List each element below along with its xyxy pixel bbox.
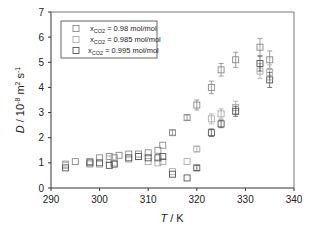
plot-area [63, 38, 273, 181]
y-tick-label: 2 [38, 132, 44, 143]
scatter-chart: 29030031032033034001234567 xCO2 = 0.98 m… [0, 0, 317, 237]
data-point [184, 159, 190, 165]
data-point [72, 159, 78, 165]
data-point [135, 154, 141, 160]
data-point [63, 165, 69, 171]
y-tick-label: 1 [38, 157, 44, 168]
data-point [145, 159, 151, 165]
y-tick-label: 7 [38, 7, 44, 18]
y-tick-label: 6 [38, 32, 44, 43]
y-tick-label: 4 [38, 82, 44, 93]
data-point [184, 175, 190, 181]
series-1 [63, 64, 273, 175]
y-tick-label: 0 [38, 183, 44, 194]
x-axis-label: T / K [160, 212, 184, 224]
x-tick-label: 290 [43, 194, 60, 205]
y-tick-label: 3 [38, 107, 44, 118]
x-tick-label: 340 [286, 194, 303, 205]
x-tick-label: 300 [91, 194, 108, 205]
y-axis-label: D / 10-8 m2 s-1 [14, 67, 26, 134]
series-2 [63, 56, 273, 181]
y-tick-label: 5 [38, 57, 44, 68]
data-point [135, 151, 141, 157]
x-tick-label: 320 [188, 194, 205, 205]
x-tick-label: 310 [140, 194, 157, 205]
data-point [135, 154, 141, 160]
data-point [170, 171, 176, 177]
legend: xCO2 = 0.98 mol/mol xCO2 = 0.985 mol/mol… [61, 21, 161, 58]
data-point [170, 169, 176, 175]
x-tick-label: 330 [237, 194, 254, 205]
